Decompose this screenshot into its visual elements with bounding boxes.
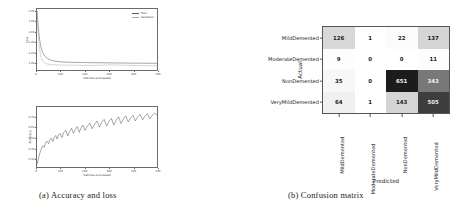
confusion-matrix-x-axis-label: Predicted (373, 178, 399, 184)
confusion-matrix-cell: 64 (323, 92, 355, 114)
loss-x-tickmark (158, 71, 159, 72)
confusion-matrix-cell: 11 (418, 49, 450, 71)
confusion-matrix-col-tickmark (338, 114, 339, 117)
confusion-matrix-row-label: VeryMildDemented (270, 99, 319, 105)
legend-entry-train: Train (132, 12, 154, 15)
legend-swatch-validation (132, 17, 139, 18)
loss-y-tick: 1.20 (29, 51, 35, 54)
confusion-matrix-col-label: VeryMildDemented (433, 142, 439, 191)
loss-x-tick: 300 (107, 73, 112, 76)
confusion-matrix-col-label: MildDemented (339, 137, 345, 174)
loss-legend: Train Validation (132, 12, 154, 20)
confusion-matrix-col-tickmark (370, 114, 371, 117)
confusion-matrix-cell: 35 (323, 70, 355, 92)
confusion-matrix-cell: 651 (386, 70, 418, 92)
confusion-matrix-row-tickmark (320, 59, 323, 60)
confusion-matrix-cell: 0 (355, 49, 387, 71)
confusion-matrix-cell: 0 (386, 49, 418, 71)
loss-y-tickmark (35, 63, 36, 64)
confusion-matrix-cell: 126 (323, 27, 355, 49)
accuracy-y-tick: 0.60 (29, 126, 35, 129)
legend-entry-validation: Validation (132, 16, 154, 19)
loss-chart: Train Validation Loss batches processed … (36, 8, 158, 71)
figure-container: Train Validation Loss batches processed … (0, 0, 458, 219)
accuracy-x-tick: 400 (131, 170, 136, 173)
loss-y-tickmark (35, 53, 36, 54)
accuracy-x-tickmark (60, 168, 61, 169)
loss-y-tickmark (35, 32, 36, 33)
confusion-matrix-cell: 9 (323, 49, 355, 71)
subfigure-a: Train Validation Loss batches processed … (14, 2, 164, 217)
accuracy-y-tickmark (35, 127, 36, 128)
loss-x-tick: 400 (131, 73, 136, 76)
confusion-matrix-cell: 143 (386, 92, 418, 114)
loss-x-tickmark (85, 71, 86, 72)
loss-y-tick: 1.00 (29, 62, 35, 65)
accuracy-chart: Accuracy batches processed 0.300.400.500… (36, 106, 158, 168)
loss-x-axis-label: batches processed (83, 77, 110, 80)
confusion-matrix-col-label: ModerateDemented (370, 143, 376, 194)
subfigure-b: Confusion matrix 12612213790011350651343… (228, 2, 456, 217)
loss-x-tickmark (109, 71, 110, 72)
accuracy-curve (37, 107, 157, 167)
confusion-matrix-row-label: ModerateDemented (268, 56, 319, 62)
legend-label-train: Train (141, 12, 147, 15)
legend-swatch-train (132, 13, 139, 14)
legend-label-validation: Validation (141, 16, 154, 19)
confusion-matrix-cell: 1 (355, 27, 387, 49)
loss-y-tickmark (35, 42, 36, 43)
loss-x-tick: 0 (35, 73, 37, 76)
accuracy-y-tick: 0.50 (29, 137, 35, 140)
accuracy-x-tickmark (134, 168, 135, 169)
confusion-matrix-row-tickmark (320, 102, 323, 103)
accuracy-plot-frame (36, 106, 158, 168)
loss-plot-frame: Train Validation (36, 8, 158, 71)
loss-y-tickmark (35, 21, 36, 22)
confusion-matrix-col-tickmark (433, 114, 434, 117)
loss-y-tick: 1.60 (29, 30, 35, 33)
confusion-matrix-cell: 22 (386, 27, 418, 49)
accuracy-x-tick: 300 (107, 170, 112, 173)
accuracy-y-tickmark (35, 117, 36, 118)
confusion-matrix-row-label: MildDemented (282, 35, 319, 41)
loss-x-tick: 200 (82, 73, 87, 76)
subfigure-b-caption: (b) Confusion matrix (288, 190, 364, 200)
confusion-matrix-col-tickmark (401, 114, 402, 117)
loss-x-tick: 100 (58, 73, 63, 76)
loss-y-tick: 2.00 (29, 9, 35, 12)
confusion-matrix-col-label: NonDemented (402, 136, 408, 173)
confusion-matrix-grid: 12612213790011350651343641143505MildDeme… (322, 26, 450, 114)
loss-y-tickmark (35, 11, 36, 12)
accuracy-x-tick: 500 (155, 170, 160, 173)
loss-x-tickmark (134, 71, 135, 72)
accuracy-x-tick: 0 (35, 170, 37, 173)
loss-y-tick: 1.80 (29, 20, 35, 23)
accuracy-y-tickmark (35, 138, 36, 139)
accuracy-x-tickmark (158, 168, 159, 169)
confusion-matrix-row-tickmark (320, 80, 323, 81)
loss-x-tickmark (36, 71, 37, 72)
confusion-matrix-cell: 1 (355, 92, 387, 114)
confusion-matrix-cell: 0 (355, 70, 387, 92)
confusion-matrix-cell: 137 (418, 27, 450, 49)
loss-x-tickmark (60, 71, 61, 72)
subfigure-a-caption: (a) Accuracy and loss (39, 190, 117, 200)
accuracy-x-axis-label: batches processed (83, 174, 110, 177)
accuracy-y-tick: 0.40 (29, 147, 35, 150)
loss-y-tick: 1.40 (29, 41, 35, 44)
accuracy-y-tickmark (35, 159, 36, 160)
accuracy-y-tickmark (35, 149, 36, 150)
confusion-matrix-cell: 505 (418, 92, 450, 114)
confusion-matrix-y-axis-label: Actual (297, 61, 303, 79)
accuracy-y-tick: 0.70 (29, 115, 35, 118)
confusion-matrix-cell: 343 (418, 70, 450, 92)
confusion-matrix-row-tickmark (320, 37, 323, 38)
loss-x-tick: 500 (155, 73, 160, 76)
accuracy-x-tick: 200 (82, 170, 87, 173)
accuracy-x-tickmark (109, 168, 110, 169)
accuracy-x-tick: 100 (58, 170, 63, 173)
accuracy-x-tickmark (36, 168, 37, 169)
accuracy-x-tickmark (85, 168, 86, 169)
accuracy-y-tick: 0.30 (29, 158, 35, 161)
